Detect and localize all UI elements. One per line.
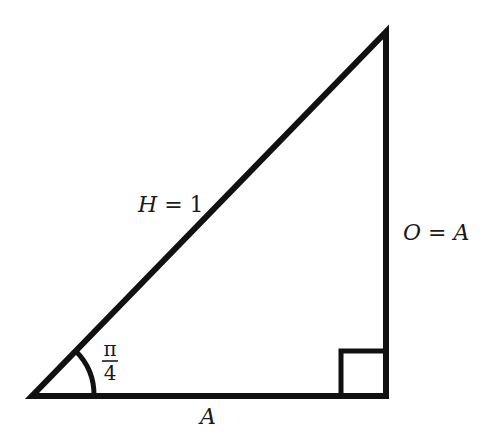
- right-triangle-diagram: H = 1 O = A A π 4: [0, 0, 488, 446]
- angle-arc: [76, 351, 94, 396]
- adjacent-label: A: [198, 404, 216, 429]
- opposite-label: O = A: [403, 220, 469, 245]
- hypotenuse-label: H = 1: [137, 192, 204, 217]
- angle-numerator: π: [103, 337, 116, 361]
- angle-denominator: 4: [104, 361, 117, 385]
- angle-label: π 4: [102, 337, 118, 385]
- triangle-shape: [32, 32, 386, 396]
- right-angle-marker: [341, 351, 386, 396]
- triangle-outline: [32, 32, 386, 396]
